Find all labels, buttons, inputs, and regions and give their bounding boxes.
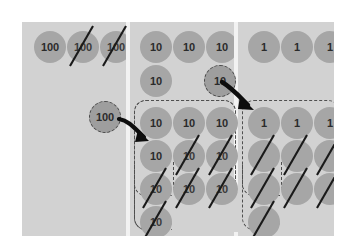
disc-label: 100	[41, 42, 59, 53]
disc-ones-r1c3[interactable]: 1	[314, 31, 334, 63]
disc-label: 10	[183, 42, 195, 53]
disc-tens-g-r2c1[interactable]: 10	[140, 140, 172, 172]
disc-ones-r1c2[interactable]: 1	[281, 31, 313, 63]
disc-ones-g-r4c1[interactable]	[248, 206, 280, 236]
disc-label: 1	[261, 118, 267, 129]
disc-ones-g-r2c1[interactable]	[248, 140, 280, 172]
disc-tens-g-r2c3[interactable]: 10	[206, 140, 238, 172]
disc-tens-r1c2[interactable]: 10	[173, 31, 205, 63]
disc-ones-g-r1c2[interactable]: 1	[281, 107, 313, 139]
disc-tens-g-r1c3[interactable]: 10	[206, 107, 238, 139]
disc-label: 1	[327, 42, 333, 53]
disc-tens-g-r3c1[interactable]: 10	[140, 173, 172, 205]
disc-label: 10	[216, 118, 228, 129]
diagram-canvas: 100 100 100 100 10	[0, 0, 356, 252]
disc-label: 10	[183, 184, 195, 195]
disc-label: 10	[216, 151, 228, 162]
disc-label: 1	[261, 42, 267, 53]
disc-tens-g-r1c1[interactable]: 10	[140, 107, 172, 139]
disc-label: 10	[150, 118, 162, 129]
disc-label: 10	[216, 42, 228, 53]
disc-tens-g-r1c2[interactable]: 10	[173, 107, 205, 139]
disc-label: 100	[107, 42, 125, 53]
disc-label: 10	[214, 76, 226, 87]
disc-label: 1	[294, 118, 300, 129]
disc-tens-r2c1[interactable]: 10	[140, 65, 172, 97]
disc-label: 10	[150, 217, 162, 228]
disc-label: 10	[183, 118, 195, 129]
disc-label: 10	[150, 151, 162, 162]
place-value-board: 100 100 100 100 10	[22, 22, 334, 236]
disc-label: 10	[150, 42, 162, 53]
disc-tens-r1c1[interactable]: 10	[140, 31, 172, 63]
disc-tens-g-r2c2[interactable]: 10	[173, 140, 205, 172]
disc-hundreds-r1c1[interactable]: 100	[34, 31, 66, 63]
disc-ones-g-r3c1[interactable]	[248, 173, 280, 205]
disc-ones-g-r1c1[interactable]: 1	[248, 107, 280, 139]
disc-tens-g-r4c1[interactable]: 10	[140, 206, 172, 236]
disc-label: 10	[150, 76, 162, 87]
disc-tens-g-r3c3[interactable]: 10	[206, 173, 238, 205]
disc-label: 10	[150, 184, 162, 195]
moving-disc-hundreds[interactable]: 100	[89, 101, 121, 133]
disc-label: 10	[183, 151, 195, 162]
moving-disc-tens[interactable]: 10	[204, 65, 236, 97]
disc-label: 1	[294, 42, 300, 53]
disc-ones-g-r3c2[interactable]	[281, 173, 313, 205]
disc-ones-r1c1[interactable]: 1	[248, 31, 280, 63]
disc-tens-g-r3c2[interactable]: 10	[173, 173, 205, 205]
disc-hundreds-r1c2[interactable]: 100	[67, 31, 99, 63]
disc-label: 10	[216, 184, 228, 195]
column-ones: 1 1 1 1 1 1	[238, 22, 334, 236]
disc-label: 1	[327, 118, 333, 129]
disc-ones-g-r2c2[interactable]	[281, 140, 313, 172]
column-tens: 10 10 10 10 10 10	[130, 22, 234, 236]
disc-label: 100	[96, 112, 114, 123]
column-hundreds: 100 100 100 100	[22, 22, 126, 236]
disc-label: 100	[74, 42, 92, 53]
